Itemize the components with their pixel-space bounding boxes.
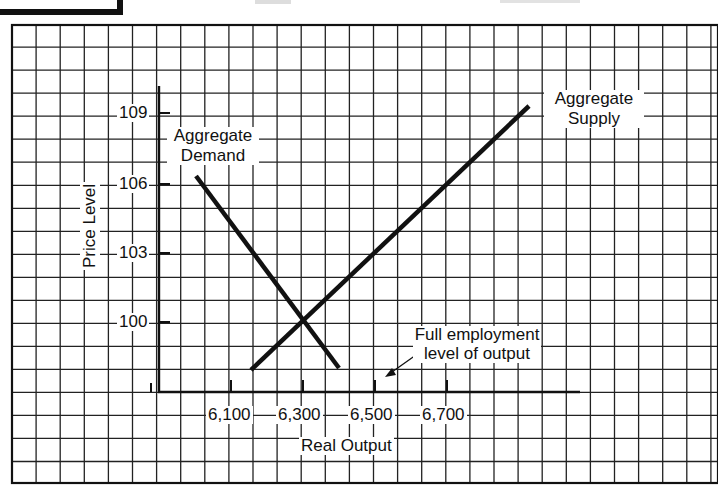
ad-label-line2: Demand: [167, 147, 259, 165]
y-axis-title: Price Level: [80, 182, 100, 270]
fe-label-line2: level of output: [413, 345, 541, 363]
x-tick-label-6100: 6,100: [206, 406, 253, 424]
as-label-line2: Supply: [544, 110, 644, 128]
aggregate-demand-line: [196, 176, 339, 368]
aggregate-demand-label: Aggregate Demand: [167, 127, 259, 165]
x-tick-label-6500: 6,500: [348, 406, 395, 424]
y-tick-label-106: 106: [117, 175, 149, 193]
x-tick-label-6300: 6,300: [276, 406, 323, 424]
x-axis-title: Real Output: [299, 437, 394, 455]
full-employment-annotation: Full employment level of output: [413, 326, 541, 363]
aggregate-supply-label: Aggregate Supply: [544, 90, 644, 128]
as-label-line1: Aggregate: [544, 90, 644, 108]
y-tick-label-100: 100: [117, 313, 149, 331]
y-tick-label-109: 109: [117, 104, 149, 122]
chart-figure: 109 106 103 100 6,100 6,300 6,500 6,700 …: [0, 0, 718, 491]
fe-label-line1: Full employment: [413, 326, 541, 344]
header-box-frame: [0, 0, 120, 12]
x-tick-label-6700: 6,700: [420, 406, 467, 424]
ad-label-line1: Aggregate: [167, 127, 259, 145]
y-tick-label-103: 103: [117, 244, 149, 262]
